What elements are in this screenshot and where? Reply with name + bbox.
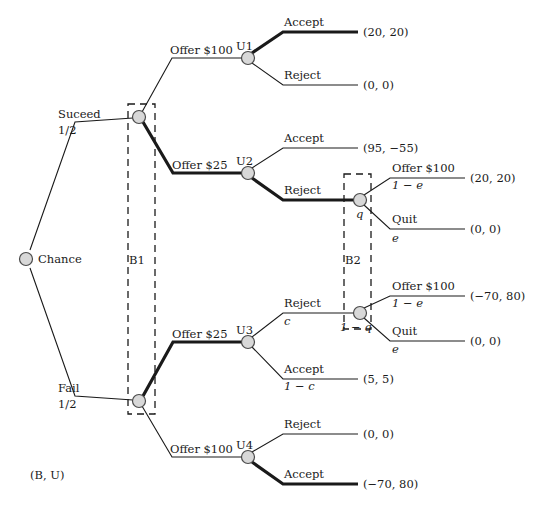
- action-label-fail: Fail: [58, 381, 80, 395]
- node-label-b2-bottom-prob: 1 − q: [340, 320, 372, 334]
- prob-label-fail: 1/2: [58, 397, 77, 411]
- action-label-b2top-quit: Quit: [392, 212, 418, 226]
- node-label-chance: Chance: [38, 252, 82, 266]
- action-label-u4-reject: Reject: [284, 417, 321, 431]
- action-label-u2-accept: Accept: [283, 131, 324, 145]
- action-label-u1-reject: Reject: [284, 68, 321, 82]
- prob-label-u3-reject: c: [284, 314, 291, 328]
- payoff-t8: (0, 0): [470, 334, 501, 348]
- node-b2-bottom[interactable]: [354, 307, 367, 320]
- payoff-t1: (20, 20): [363, 25, 409, 39]
- edge-u4-reject: [252, 434, 358, 452]
- node-b2-top[interactable]: [354, 194, 367, 207]
- action-label-b2top-offer100: Offer $100: [392, 161, 455, 175]
- edge-b1bot-offer25: [143, 342, 242, 396]
- prob-label-suceed: 1/2: [58, 123, 77, 137]
- node-label-u4: U4: [236, 438, 253, 452]
- node-u2[interactable]: [242, 167, 255, 180]
- edge-u2-accept: [252, 148, 358, 168]
- infoset-label-b2: B2: [345, 253, 361, 267]
- action-label-u4-accept: Accept: [283, 467, 324, 481]
- action-label-u1-accept: Accept: [283, 15, 324, 29]
- action-label-b1top-offer25: Offer $25: [172, 158, 228, 172]
- payoff-t9: (0, 0): [363, 427, 394, 441]
- prob-label-b2bot-quit: e: [392, 342, 399, 356]
- edge-b1top-offer100: [142, 58, 242, 112]
- edge-chance-suceed: [30, 118, 133, 250]
- node-u4[interactable]: [242, 451, 255, 464]
- payoff-t5: (0, 0): [470, 222, 501, 236]
- action-label-u3-accept: Accept: [283, 362, 324, 376]
- edge-u1-accept: [252, 32, 358, 53]
- node-b1-top[interactable]: [133, 111, 146, 124]
- action-label-u3-reject: Reject: [284, 296, 321, 310]
- node-b1-bottom[interactable]: [133, 395, 146, 408]
- game-tree-figure: Chance U1 U2 U3 U4 q 1 − q B1 B2 Suceed …: [0, 0, 540, 510]
- payoff-t3: (95, −55): [363, 141, 418, 155]
- node-label-b2-top-prob: q: [356, 207, 363, 221]
- node-u3[interactable]: [242, 336, 255, 349]
- strategy-profile-label: (B, U): [30, 468, 64, 482]
- payoff-t6: (5, 5): [363, 372, 394, 386]
- edge-chance-fail: [30, 268, 133, 400]
- prob-label-b2bot-offer100: 1 − e: [392, 296, 423, 310]
- infoset-label-b1: B1: [129, 253, 145, 267]
- node-label-u1: U1: [236, 39, 253, 53]
- prob-label-b2top-offer100: 1 − e: [392, 178, 423, 192]
- prob-label-u3-accept: 1 − c: [284, 379, 315, 393]
- action-label-b1bot-offer100: Offer $100: [170, 442, 233, 456]
- node-u1[interactable]: [242, 52, 255, 65]
- payoff-t10: (−70, 80): [363, 477, 418, 491]
- prob-label-b2top-quit: e: [392, 231, 399, 245]
- payoff-t2: (0, 0): [363, 78, 394, 92]
- action-label-b2bot-quit: Quit: [392, 324, 418, 338]
- action-label-suceed: Suceed: [58, 107, 101, 121]
- node-chance[interactable]: [20, 253, 33, 266]
- action-label-b2bot-offer100: Offer $100: [392, 279, 455, 293]
- action-label-u2-reject: Reject: [284, 183, 321, 197]
- node-label-u2: U2: [236, 154, 253, 168]
- edge-u3-reject: [252, 313, 354, 337]
- payoff-t7: (−70, 80): [470, 289, 525, 303]
- action-label-b1bot-offer25: Offer $25: [172, 327, 228, 341]
- payoff-t4: (20, 20): [470, 171, 516, 185]
- action-label-b1top-offer100: Offer $100: [170, 43, 233, 57]
- game-tree-svg: Chance U1 U2 U3 U4 q 1 − q B1 B2 Suceed …: [0, 0, 540, 510]
- node-label-u3: U3: [236, 323, 253, 337]
